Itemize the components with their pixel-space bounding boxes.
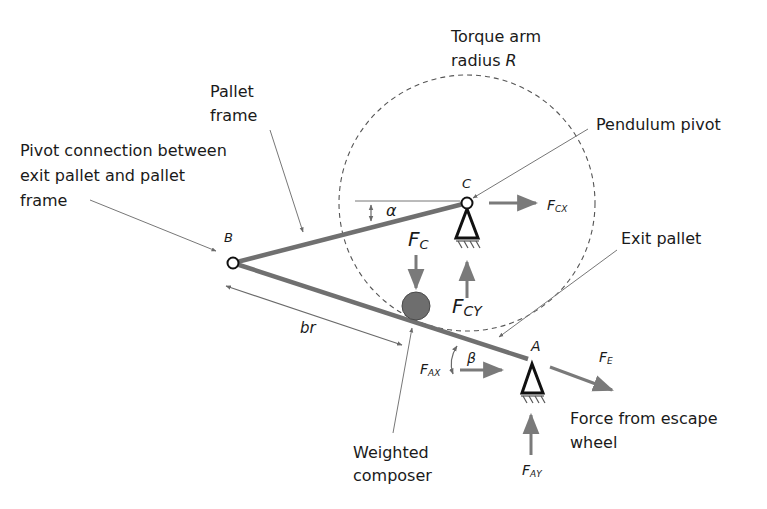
weighted-composer-label: Weighted composer — [353, 443, 434, 485]
point-b-label: B — [224, 230, 233, 245]
point-c-label: C — [462, 176, 472, 191]
pallet-frame-leader — [270, 130, 303, 232]
weighted-composer-ball — [402, 292, 430, 320]
fax-label: FAX — [420, 361, 441, 378]
fe-label: FE — [599, 349, 613, 366]
fcx-label: FCX — [547, 197, 568, 214]
beta-angle-arc — [451, 346, 457, 374]
fay-label: FAY — [522, 462, 543, 479]
point-a-label: A — [530, 338, 541, 354]
force-escape-wheel-label: Force from escape wheel — [570, 409, 723, 452]
torque-arm-label: Torque arm radius R — [450, 27, 546, 70]
pendulum-pivot-support — [456, 209, 480, 248]
br-symbol: br — [300, 319, 317, 337]
weighted-composer-leader — [393, 328, 412, 433]
pendulum-pivot-leader — [473, 129, 588, 198]
fe-arrow — [550, 367, 612, 390]
pallet-frame-label: Pallet frame — [210, 82, 259, 125]
alpha-symbol: α — [386, 201, 397, 220]
exit-pallet-support — [521, 364, 545, 403]
beta-symbol: β — [466, 350, 476, 366]
pivot-c — [462, 198, 473, 209]
mechanism-diagram: α B C A FCX FC FCY FAX β FE FAY br — [0, 0, 767, 509]
pivot-connection-leader — [90, 200, 216, 251]
pallet-frame-member — [233, 203, 467, 263]
exit-pallet-member — [233, 263, 528, 359]
exit-pallet-leader — [499, 250, 617, 337]
pivot-b — [228, 258, 239, 269]
fc-label: FC — [408, 227, 430, 252]
pendulum-pivot-label: Pendulum pivot — [596, 115, 721, 134]
pivot-connection-label: Pivot connection between exit pallet and… — [20, 141, 232, 210]
exit-pallet-label: Exit pallet — [621, 229, 701, 248]
